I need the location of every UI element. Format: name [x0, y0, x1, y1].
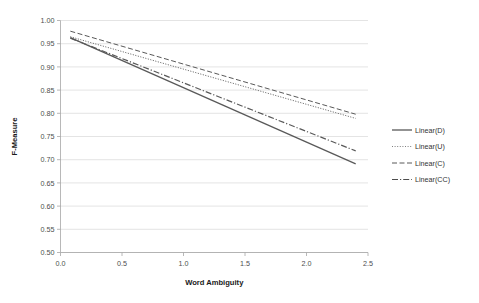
x-tick-label: 0.5	[117, 259, 127, 268]
legend-label-2[interactable]: Linear(C)	[415, 159, 445, 168]
series-line-3	[70, 38, 355, 151]
y-tick-label: 0.55	[41, 225, 55, 234]
legend: Linear(D)Linear(U)Linear(C)Linear(CC)	[392, 126, 450, 185]
line-chart: 0.500.550.600.650.700.750.800.850.900.95…	[0, 0, 479, 303]
y-tick-label: 0.65	[41, 179, 55, 188]
y-tick-label: 0.95	[41, 39, 55, 48]
legend-label-1[interactable]: Linear(U)	[415, 142, 445, 151]
x-tick-label: 1.5	[240, 259, 250, 268]
series-lines	[70, 31, 355, 164]
x-tick-marks	[61, 253, 369, 257]
x-tick-label: 0.0	[56, 259, 66, 268]
x-axis-title: Word Ambiguity	[185, 278, 244, 287]
legend-label-3[interactable]: Linear(CC)	[415, 175, 450, 184]
legend-label-0[interactable]: Linear(D)	[415, 126, 445, 135]
x-tick-label: 1.0	[179, 259, 189, 268]
y-tick-label: 0.70	[41, 155, 55, 164]
series-line-1	[70, 37, 355, 119]
chart-container: 0.500.550.600.650.700.750.800.850.900.95…	[0, 0, 479, 303]
x-tick-label: 2.0	[302, 259, 312, 268]
y-axis-title: F-Measure	[10, 118, 19, 156]
series-line-0	[70, 38, 355, 164]
y-tick-label: 0.75	[41, 132, 55, 141]
y-tick-label: 0.90	[41, 63, 55, 72]
y-tick-labels: 0.500.550.600.650.700.750.800.850.900.95…	[41, 16, 55, 257]
y-tick-label: 0.80	[41, 109, 55, 118]
x-tick-label: 2.5	[363, 259, 373, 268]
y-tick-label: 0.60	[41, 202, 55, 211]
y-tick-label: 0.50	[41, 248, 55, 257]
y-tick-marks	[57, 21, 61, 253]
y-tick-label: 1.00	[41, 16, 55, 25]
y-tick-label: 0.85	[41, 86, 55, 95]
x-tick-labels: 0.00.51.01.52.02.5	[56, 259, 374, 268]
gridlines	[61, 21, 369, 253]
